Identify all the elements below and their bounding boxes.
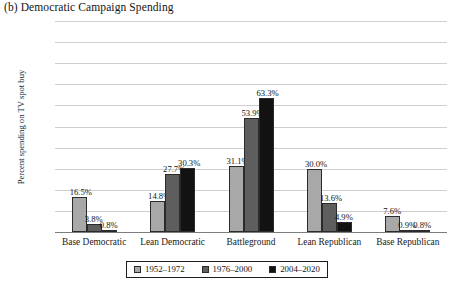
bar-value-label: 63.3% (257, 88, 279, 98)
bar (337, 222, 352, 232)
legend-item: 1976–2000 (202, 264, 253, 274)
legend-swatch-icon (134, 266, 141, 273)
x-tick-label: Battleground (227, 237, 276, 247)
bar-value-label: 0.8% (413, 220, 431, 230)
bar-value-label: 0.8% (100, 220, 118, 230)
bar-group: 14.8%27.7%30.3% (150, 21, 195, 232)
chart-legend: 1952–19721976–20002004–2020 (126, 261, 328, 278)
bar (180, 168, 195, 232)
bar-group: 16.5%3.8%0.8% (72, 21, 117, 232)
bar-value-label: 30.0% (305, 159, 327, 169)
plot-area: 0%10%20%30%40%50%60%70%80%90%100% 16.5%3… (55, 21, 447, 232)
bar-value-label: 13.6% (320, 193, 342, 203)
bar-group: 30.0%13.6%4.9% (307, 21, 352, 232)
bar-group: 7.6%0.9%0.8% (385, 21, 430, 232)
legend-label: 1976–2000 (213, 264, 253, 274)
x-tick-label: Lean Democratic (140, 237, 205, 247)
x-tick-label: Base Democratic (62, 237, 126, 247)
axis-baseline (55, 232, 447, 233)
bar (259, 98, 274, 232)
chart-title: (b) Democratic Campaign Spending (4, 1, 174, 13)
bars-layer: 16.5%3.8%0.8%14.8%27.7%30.3%31.1%53.9%63… (55, 21, 447, 232)
legend-swatch-icon (202, 266, 209, 273)
bar-value-label: 30.3% (178, 158, 200, 168)
bar (165, 174, 180, 232)
y-axis-title: Percent spending on TV spot buy (16, 32, 26, 222)
bar-group: 31.1%53.9%63.3% (229, 21, 274, 232)
bar (229, 166, 244, 232)
bar-value-label: 7.6% (383, 206, 401, 216)
bar-value-label: 16.5% (70, 187, 92, 197)
legend-item: 2004–2020 (269, 264, 320, 274)
bar-value-label: 4.9% (335, 212, 353, 222)
legend-label: 1952–1972 (145, 264, 185, 274)
x-tick-label: Base Republican (376, 237, 439, 247)
bar (244, 118, 259, 232)
legend-swatch-icon (269, 266, 276, 273)
bar (150, 201, 165, 232)
legend-item: 1952–1972 (134, 264, 185, 274)
x-tick-label: Lean Republican (298, 237, 362, 247)
legend-label: 2004–2020 (280, 264, 320, 274)
